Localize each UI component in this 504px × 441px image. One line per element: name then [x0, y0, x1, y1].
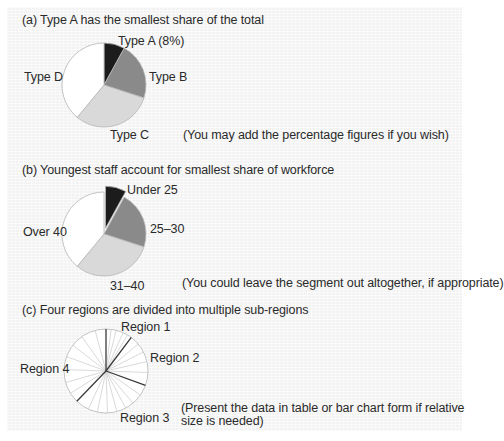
- label-region-4: Region 4: [20, 362, 69, 376]
- section-c-note-line2: size is needed): [181, 414, 264, 428]
- label-region-3: Region 3: [120, 411, 169, 425]
- label-region-1: Region 1: [121, 320, 170, 334]
- label-region-2: Region 2: [150, 351, 199, 365]
- section-c-note-line1: (Present the data in table or bar chart …: [181, 401, 464, 415]
